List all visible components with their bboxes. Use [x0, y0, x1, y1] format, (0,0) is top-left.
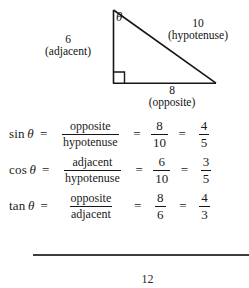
- ratio-words-slot: opposite adjacent: [54, 192, 128, 220]
- simplified-numerator: 4: [199, 119, 210, 132]
- numeric-fraction: 8 6: [155, 191, 166, 221]
- ratio-numerator: opposite: [70, 192, 113, 204]
- side-value-opposite: 8: [120, 84, 224, 96]
- function-name-cos: cosθ: [9, 162, 36, 178]
- equation-row: cosθ = adjacent hypotenuse = 6 10 = 3 5: [0, 152, 249, 188]
- ratio-numerator: adjacent: [71, 156, 113, 168]
- fraction-denominator: 6: [155, 208, 166, 221]
- simplified-denominator: 3: [199, 208, 210, 221]
- ratio-words-fraction: opposite adjacent: [70, 192, 113, 220]
- right-angle-marker: [114, 72, 125, 83]
- equals-sign-3: =: [173, 198, 192, 214]
- simplified-fraction: 3 5: [201, 155, 212, 185]
- fraction-numerator: 8: [155, 191, 166, 204]
- ratio-words-fraction: opposite hypotenuse: [62, 120, 119, 148]
- side-value-hypotenuse: 10: [150, 17, 246, 29]
- numeric-fraction-slot: 6 10: [149, 155, 175, 185]
- numeric-fraction: 6 10: [153, 155, 170, 185]
- side-role-hypotenuse: (hypotenuse): [150, 29, 246, 41]
- equals-sign-3: =: [173, 126, 192, 142]
- footer-divider: [33, 254, 249, 256]
- numeric-fraction-slot: 8 10: [147, 119, 173, 149]
- page-number: 12: [0, 272, 249, 288]
- equation-row: sinθ = opposite hypotenuse = 8 10 = 4 5: [0, 116, 249, 152]
- fraction-numerator: 6: [156, 155, 167, 168]
- side-label-adjacent: 6 (adjacent): [26, 33, 110, 57]
- side-label-opposite: 8 (opposite): [120, 84, 224, 108]
- equals-sign: =: [34, 126, 53, 142]
- simplified-fraction: 4 3: [199, 191, 210, 221]
- numeric-fraction-slot: 8 6: [147, 191, 173, 221]
- function-name-tan: tanθ: [9, 198, 35, 214]
- fraction-denominator: 10: [151, 136, 168, 149]
- simplified-denominator: 5: [201, 172, 212, 185]
- ratio-words-fraction: adjacent hypotenuse: [64, 156, 121, 184]
- simplified-fraction: 4 5: [199, 119, 210, 149]
- simplified-fraction-slot: 3 5: [194, 155, 218, 185]
- numeric-fraction: 8 10: [151, 119, 168, 149]
- equals-sign: =: [36, 162, 55, 178]
- equals-sign: =: [35, 198, 54, 214]
- simplified-numerator: 3: [201, 155, 212, 168]
- ratio-words-slot: adjacent hypotenuse: [55, 156, 129, 184]
- theta-symbol: θ: [25, 126, 34, 141]
- side-role-opposite: (opposite): [120, 96, 224, 108]
- equals-sign-2: =: [128, 198, 147, 214]
- side-label-hypotenuse: 10 (hypotenuse): [150, 17, 246, 41]
- simplified-fraction-slot: 4 3: [193, 191, 217, 221]
- simplified-denominator: 5: [199, 136, 210, 149]
- fraction-numerator: 8: [154, 119, 165, 132]
- theta-symbol: θ: [25, 198, 34, 213]
- ratio-denominator: hypotenuse: [64, 172, 121, 184]
- angle-theta-label: θ: [116, 9, 122, 25]
- theta-symbol: θ: [27, 162, 36, 177]
- equation-row: tanθ = opposite adjacent = 8 6 = 4 3: [0, 188, 249, 224]
- trig-equation-list: sinθ = opposite hypotenuse = 8 10 = 4 5: [0, 116, 249, 224]
- equals-sign-2: =: [127, 126, 146, 142]
- simplified-numerator: 4: [199, 191, 210, 204]
- equals-sign-2: =: [129, 162, 148, 178]
- equals-sign-3: =: [175, 162, 194, 178]
- function-name-sin: sinθ: [9, 126, 34, 142]
- simplified-fraction-slot: 4 5: [192, 119, 216, 149]
- triangle-figure: θ 6 (adjacent) 10 (hypotenuse) 8 (opposi…: [0, 0, 249, 112]
- side-value-adjacent: 6: [26, 33, 110, 45]
- ratio-denominator: hypotenuse: [62, 136, 119, 148]
- ratio-words-slot: opposite hypotenuse: [53, 120, 127, 148]
- ratio-numerator: opposite: [69, 120, 112, 132]
- fraction-denominator: 10: [153, 172, 170, 185]
- ratio-denominator: adjacent: [70, 208, 112, 220]
- side-role-adjacent: (adjacent): [26, 45, 110, 57]
